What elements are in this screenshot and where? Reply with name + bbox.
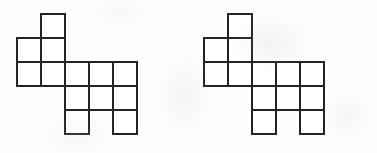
polyomino-cell-group xyxy=(204,14,324,134)
polyomino-cell xyxy=(113,86,137,110)
polyomino-cell xyxy=(65,62,89,86)
polyomino-cell xyxy=(228,14,252,38)
polyomino-cell xyxy=(204,62,228,86)
polyomino-cell xyxy=(300,110,324,134)
polyomino-cell xyxy=(41,38,65,62)
polyomino-cell xyxy=(17,38,41,62)
polyomino-cell xyxy=(300,62,324,86)
polyomino-cell xyxy=(276,62,300,86)
polyomino-cell xyxy=(65,86,89,110)
polyomino-cell xyxy=(17,62,41,86)
polyomino-cell-group xyxy=(17,14,137,134)
polyomino-cell xyxy=(65,110,89,134)
polyomino-cell xyxy=(113,110,137,134)
polyomino-figure-right-svg xyxy=(187,0,377,153)
polyomino-figure-left xyxy=(0,0,187,153)
polyomino-cell xyxy=(252,86,276,110)
polyomino-cell xyxy=(252,62,276,86)
polyomino-cell xyxy=(89,62,113,86)
page-canvas xyxy=(0,0,377,153)
polyomino-cell xyxy=(300,86,324,110)
polyomino-cell xyxy=(41,62,65,86)
polyomino-cell xyxy=(276,86,300,110)
polyomino-cell xyxy=(41,14,65,38)
polyomino-cell xyxy=(89,86,113,110)
polyomino-cell xyxy=(113,62,137,86)
polyomino-figure-right xyxy=(187,0,377,153)
polyomino-cell xyxy=(228,62,252,86)
polyomino-cell xyxy=(204,38,228,62)
polyomino-cell xyxy=(228,38,252,62)
polyomino-cell xyxy=(252,110,276,134)
polyomino-figure-left-svg xyxy=(0,0,187,153)
